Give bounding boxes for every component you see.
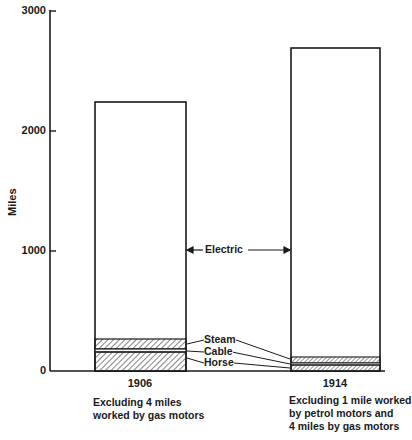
x-category-1906: 1906 [100,377,180,389]
note-1914: Excluding 1 mile worked by petrol motors… [289,394,412,433]
y-tick-0: 0 [2,364,46,376]
label-horse: Horse [204,356,234,368]
y-tick-2000: 2000 [2,124,46,136]
bar-1906 [95,102,186,371]
bar-1914 [291,48,380,371]
y-axis [50,10,56,371]
bar-1914-horse [291,365,380,371]
label-steam: Steam [204,333,236,345]
y-axis-label: Miles [6,188,18,216]
label-electric: Electric [203,243,245,255]
note-1906: Excluding 4 miles worked by gas motors [93,396,204,422]
bar-1914-steam [291,357,380,363]
y-tick-3000: 3000 [2,4,46,16]
bar-1906-horse [95,352,186,371]
leader-lines [187,340,290,368]
bar-1906-steam [95,339,186,349]
x-category-1914: 1914 [295,377,375,389]
y-tick-1000: 1000 [2,244,46,256]
